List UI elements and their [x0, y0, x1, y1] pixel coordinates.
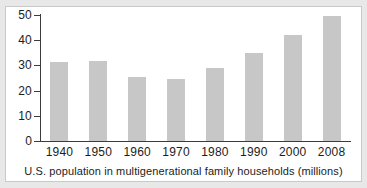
- y-axis-tick-label-wrap: 50: [0, 9, 32, 21]
- y-axis-tick-label: 10: [4, 110, 32, 122]
- y-axis-tick: [34, 141, 40, 142]
- y-axis-tick-label: 40: [4, 34, 32, 46]
- bar: [50, 62, 68, 141]
- chart-figure: 01020304050 1940195019601970198019902000…: [0, 0, 367, 188]
- x-axis-tick-label: 2008: [312, 146, 352, 158]
- x-axis-tick-label: 1950: [78, 146, 118, 158]
- bar: [89, 61, 107, 141]
- y-axis-tick: [34, 40, 40, 41]
- y-axis-tick: [34, 65, 40, 66]
- y-axis-tick-label: 30: [4, 59, 32, 71]
- y-axis-tick: [34, 91, 40, 92]
- y-axis-tick-label-wrap: 30: [0, 59, 32, 71]
- y-axis-tick-label: 20: [4, 85, 32, 97]
- y-axis-tick: [34, 15, 40, 16]
- y-axis-line: [40, 14, 41, 142]
- y-axis-tick-label-wrap: 40: [0, 34, 32, 46]
- bar: [284, 35, 302, 141]
- bar: [167, 79, 185, 141]
- y-axis-tick-label-wrap: 0: [0, 135, 32, 147]
- y-axis-tick-label: 50: [4, 9, 32, 21]
- y-axis-tick: [34, 116, 40, 117]
- chart-caption: U.S. population in multigenerational fam…: [0, 165, 367, 177]
- x-axis-line: [40, 141, 351, 142]
- y-axis-tick-label-wrap: 10: [0, 110, 32, 122]
- y-axis-tick-label: 0: [4, 135, 32, 147]
- x-axis-tick-label: 1940: [39, 146, 79, 158]
- x-axis-tick-label: 1960: [117, 146, 157, 158]
- x-axis-tick-label: 1990: [234, 146, 274, 158]
- bar: [245, 53, 263, 141]
- x-axis-tick-label: 1980: [195, 146, 235, 158]
- x-axis-tick-label: 1970: [156, 146, 196, 158]
- bar: [206, 68, 224, 141]
- x-axis-tick-label: 2000: [273, 146, 313, 158]
- bar: [323, 16, 341, 141]
- plot-area: 01020304050 1940195019601970198019902000…: [0, 0, 367, 188]
- bar: [128, 77, 146, 141]
- y-axis-tick-label-wrap: 20: [0, 85, 32, 97]
